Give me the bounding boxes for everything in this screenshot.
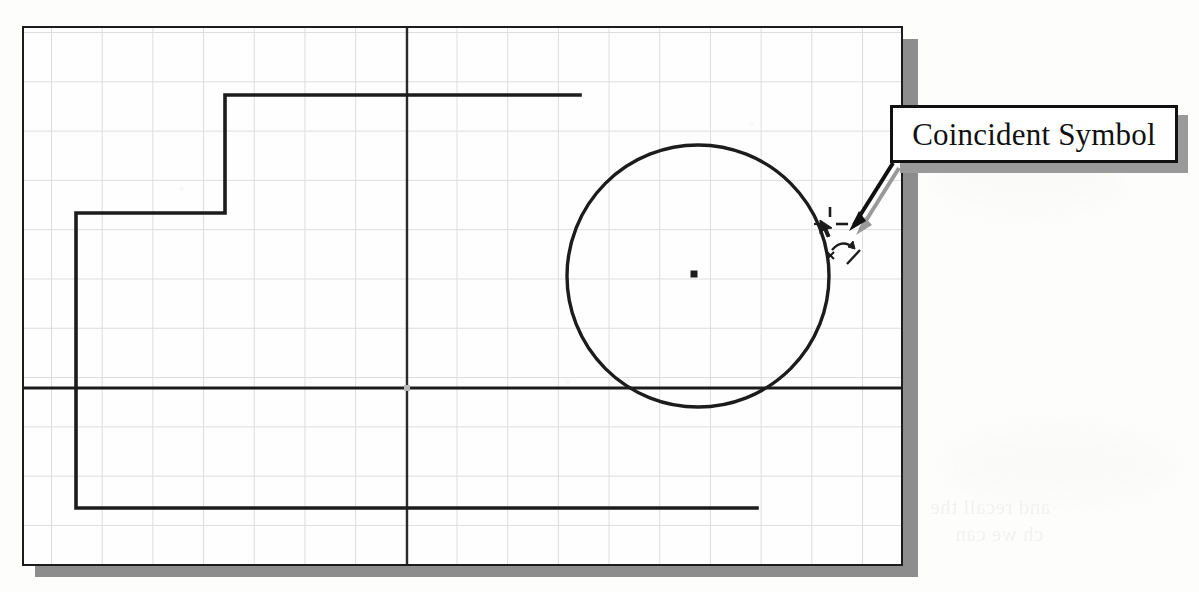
coincident-symbol-callout[interactable]: Coincident Symbol — [890, 105, 1178, 163]
sketch-drawing-frame — [22, 26, 903, 566]
bleed-through-text-2: ch we can — [955, 522, 1043, 547]
diagonal-tick-mark — [847, 250, 860, 264]
callout-label: Coincident Symbol — [912, 119, 1156, 150]
paper-smudge-2 — [950, 430, 1170, 500]
bleed-through-text-1: and recall the — [930, 495, 1050, 520]
sketch-geometry — [24, 28, 901, 564]
origin-point — [404, 385, 410, 391]
profile-stepped-outline — [76, 95, 757, 508]
circle-center-point — [691, 271, 698, 278]
scanned-page: and recall the ch we can — [0, 0, 1199, 592]
sketch-circle — [567, 145, 829, 407]
